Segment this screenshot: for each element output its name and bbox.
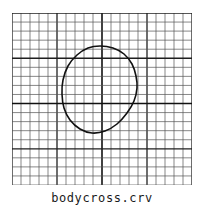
plot-area (12, 13, 192, 185)
grid-lines (12, 13, 192, 185)
figure-caption: bodycross.crv (0, 191, 204, 205)
figure-container: bodycross.crv (0, 0, 204, 215)
